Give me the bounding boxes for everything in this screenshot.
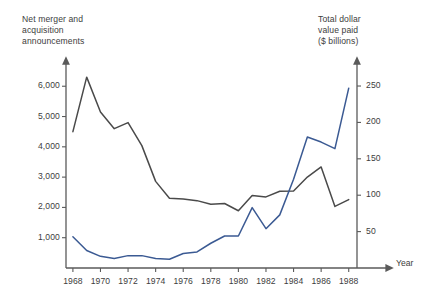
chart-container: Net merger and acquisition announcements… [0,0,439,297]
axes-group [66,64,386,268]
left-tick-label: 1,000 [10,232,60,242]
plot-area [0,0,439,297]
right-tick-label: 50 [366,226,406,236]
right-tick-label: 250 [366,80,406,90]
left-tick-label: 2,000 [10,201,60,211]
right-tick-label: 150 [366,153,406,163]
data-series-group [73,77,349,259]
series-line-dollar-value [73,88,349,259]
tick-marks-group [62,86,361,272]
left-tick-label: 4,000 [10,141,60,151]
series-line-mergers [73,77,349,211]
left-tick-label: 5,000 [10,111,60,121]
right-tick-label: 200 [366,116,406,126]
x-tick-label: 1988 [331,276,367,286]
right-tick-label: 100 [366,189,406,199]
left-tick-label: 3,000 [10,171,60,181]
left-tick-label: 6,000 [10,80,60,90]
